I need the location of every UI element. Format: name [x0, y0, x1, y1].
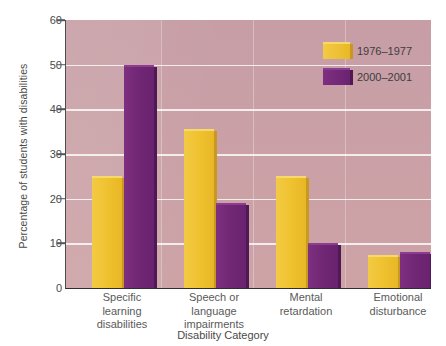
bar-side — [430, 254, 431, 288]
bar-2000-2001-speech-or-language-impairments — [216, 203, 246, 288]
bar-top — [216, 203, 246, 205]
bar-top — [276, 176, 306, 178]
bar-top — [124, 65, 154, 67]
bar-2000-2001-emotional-disturbance — [400, 252, 430, 288]
bar-face — [124, 65, 154, 288]
legend-item-2000-2001: 2000–2001 — [323, 66, 412, 87]
legend-swatch-yellow-icon — [323, 42, 350, 59]
bar-side — [154, 67, 157, 288]
legend-swatch-purple-icon — [323, 68, 350, 85]
bar-chart-figure: Percentage of students with disabilities… — [0, 0, 446, 346]
bar-1976-1977-speech-or-language-impairments — [184, 129, 214, 288]
bar-face — [216, 203, 246, 288]
x-axis-title: Disability Category — [0, 329, 446, 341]
gridline-30 — [66, 154, 431, 156]
bar-top — [184, 129, 214, 131]
bar-face — [400, 252, 430, 288]
bar-1976-1977-mental-retardation — [276, 176, 306, 288]
y-tick-mark-10 — [57, 243, 65, 245]
x-tick-label-emotional-disturbance: Emotional disturbance — [343, 291, 446, 318]
bar-face — [184, 129, 214, 288]
bar-1976-1977-specific-learning-disabilities — [92, 176, 122, 288]
bar-2000-2001-specific-learning-disabilities — [124, 65, 154, 288]
bar-face — [92, 176, 122, 288]
legend-label-1976-1977: 1976–1977 — [357, 45, 412, 57]
legend-item-1976-1977: 1976–1977 — [323, 40, 412, 61]
y-tick-mark-50 — [57, 64, 65, 66]
plot-area: 1976–1977 2000–2001 — [65, 20, 431, 289]
gridline-40 — [66, 109, 431, 111]
bar-face — [276, 176, 306, 288]
bar-top — [400, 252, 430, 254]
bar-face — [368, 255, 398, 289]
bar-2000-2001-mental-retardation — [308, 243, 338, 288]
legend: 1976–1977 2000–2001 — [323, 40, 412, 92]
bar-side — [338, 245, 341, 288]
y-tick-mark-40 — [57, 109, 65, 111]
bar-top — [92, 176, 122, 178]
bar-top — [308, 243, 338, 245]
bar-top — [368, 255, 398, 257]
bar-1976-1977-emotional-disturbance — [368, 255, 398, 289]
y-tick-mark-30 — [57, 153, 65, 155]
y-tick-mark-60 — [57, 19, 65, 21]
legend-label-2000-2001: 2000–2001 — [357, 71, 412, 83]
bar-face — [308, 243, 338, 288]
bar-side — [246, 205, 249, 288]
y-tick-label-0: 0 — [28, 282, 62, 294]
y-tick-mark-20 — [57, 198, 65, 200]
